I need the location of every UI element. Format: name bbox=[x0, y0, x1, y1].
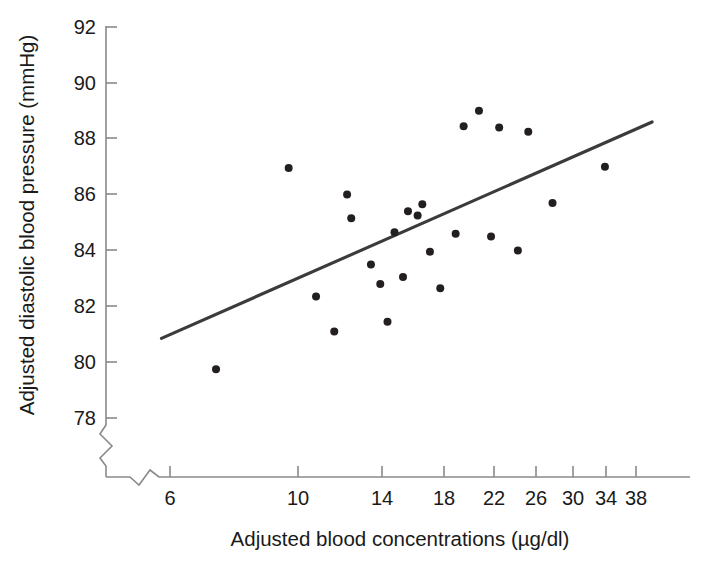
x-axis-tick-labels: 6 10 14 18 22 26 30 34 38 bbox=[164, 487, 647, 509]
data-points-layer bbox=[212, 107, 609, 373]
x-axis-ticks bbox=[170, 466, 636, 477]
data-point bbox=[285, 164, 293, 172]
y-tick-label: 88 bbox=[74, 127, 96, 149]
x-tick-label: 10 bbox=[287, 487, 309, 509]
data-point bbox=[367, 260, 375, 268]
regression-line bbox=[161, 122, 652, 338]
data-point bbox=[399, 273, 407, 281]
y-tick-label: 82 bbox=[74, 295, 96, 317]
y-axis-tick-labels: 92 90 88 86 84 82 80 78 bbox=[74, 16, 96, 429]
y-axis-title: Adjusted diastolic blood pressure (mmHg) bbox=[15, 35, 38, 416]
data-point bbox=[212, 365, 220, 373]
data-point bbox=[391, 228, 399, 236]
x-tick-label: 22 bbox=[483, 487, 505, 509]
x-tick-label: 30 bbox=[562, 487, 584, 509]
data-point bbox=[475, 107, 483, 115]
data-point bbox=[414, 212, 422, 220]
x-tick-label: 26 bbox=[525, 487, 547, 509]
data-point bbox=[524, 128, 532, 136]
x-tick-label: 14 bbox=[371, 487, 393, 509]
data-point bbox=[495, 124, 503, 132]
y-tick-label: 90 bbox=[74, 72, 96, 94]
data-point bbox=[487, 232, 495, 240]
data-point bbox=[601, 163, 609, 171]
y-tick-label: 78 bbox=[74, 407, 96, 429]
y-tick-label: 92 bbox=[74, 16, 96, 38]
y-tick-label: 84 bbox=[74, 239, 96, 261]
x-axis-title: Adjusted blood concentrations (µg/dl) bbox=[231, 527, 570, 550]
x-tick-label: 6 bbox=[164, 487, 175, 509]
y-axis-line bbox=[100, 26, 112, 477]
x-tick-label: 38 bbox=[625, 487, 647, 509]
data-point bbox=[383, 318, 391, 326]
y-tick-label: 86 bbox=[74, 183, 96, 205]
data-point bbox=[460, 122, 468, 130]
data-point bbox=[347, 214, 355, 222]
data-point bbox=[312, 293, 320, 301]
y-axis-ticks bbox=[106, 27, 117, 418]
plot-canvas: 92 90 88 86 84 82 80 78 6 10 14 18 bbox=[0, 0, 704, 570]
data-point bbox=[452, 230, 460, 238]
x-tick-label: 34 bbox=[595, 487, 617, 509]
data-point bbox=[404, 207, 412, 215]
data-point bbox=[376, 280, 384, 288]
data-point bbox=[343, 191, 351, 199]
x-tick-label: 18 bbox=[433, 487, 455, 509]
data-point bbox=[436, 284, 444, 292]
data-point bbox=[514, 246, 522, 254]
scatter-plot-figure: 92 90 88 86 84 82 80 78 6 10 14 18 bbox=[0, 0, 704, 570]
data-point bbox=[426, 248, 434, 256]
data-point bbox=[418, 200, 426, 208]
y-tick-label: 80 bbox=[74, 351, 96, 373]
data-point bbox=[549, 199, 557, 207]
x-axis-line bbox=[106, 470, 690, 485]
data-point bbox=[330, 327, 338, 335]
